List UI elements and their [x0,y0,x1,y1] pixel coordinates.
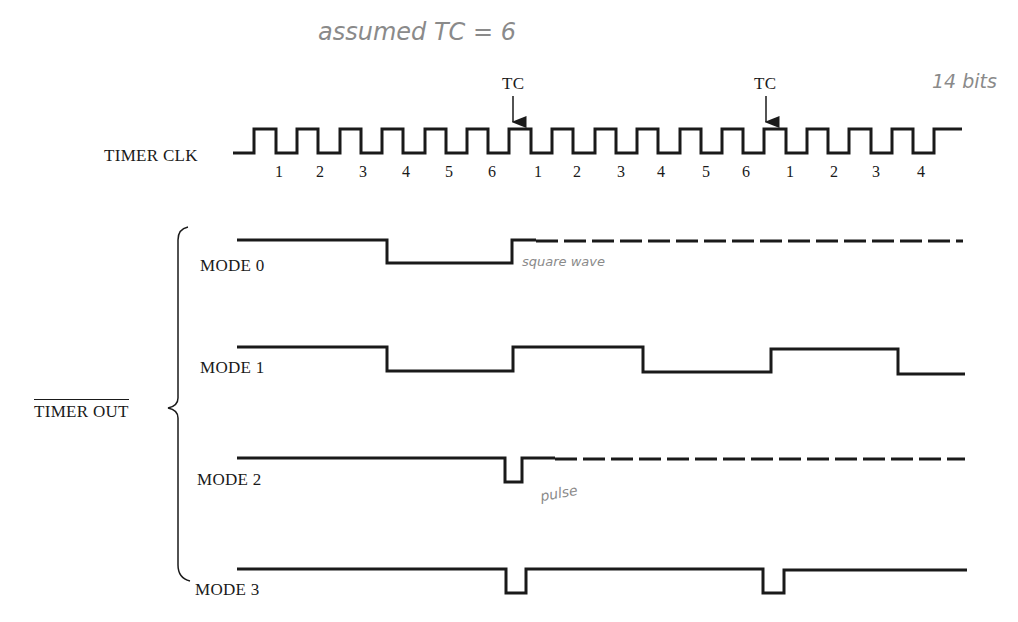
svg-text:1: 1 [534,163,542,180]
svg-text:2: 2 [316,163,324,180]
svg-text:4: 4 [657,163,665,180]
svg-text:4: 4 [402,163,410,180]
svg-text:3: 3 [872,163,880,180]
mode-3-waveform [237,569,967,593]
svg-text:4: 4 [917,163,925,180]
mode-1-waveform [237,347,965,374]
timing-diagram: 1 2 3 4 5 6 1 2 3 4 5 6 1 2 3 4 [0,0,1018,622]
timer-clk-waveform [233,129,962,153]
svg-text:3: 3 [617,163,625,180]
svg-text:5: 5 [702,163,710,180]
mode-2-waveform [237,458,555,482]
svg-text:1: 1 [786,163,794,180]
svg-text:2: 2 [830,163,838,180]
svg-text:6: 6 [742,163,750,180]
timer-out-brace [168,227,190,581]
svg-text:5: 5 [445,163,453,180]
clock-tick-labels: 1 2 3 4 5 6 1 2 3 4 5 6 1 2 3 4 [275,163,925,180]
mode-0-waveform [237,240,536,263]
svg-text:1: 1 [275,163,283,180]
svg-text:2: 2 [573,163,581,180]
svg-text:6: 6 [488,163,496,180]
svg-text:3: 3 [359,163,367,180]
